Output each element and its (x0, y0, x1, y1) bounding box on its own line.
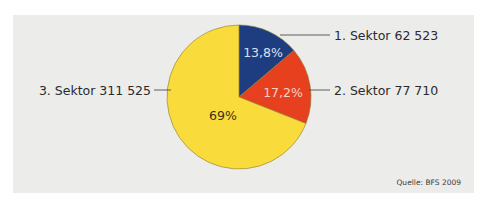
pie-chart: 13,8%17,2%69% 1. Sektor 62 5232. Sektor … (0, 0, 486, 208)
percent-label-3: 69% (209, 108, 237, 123)
category-label-3: 3. Sektor 311 525 (39, 83, 151, 98)
category-label-2: 2. Sektor 77 710 (334, 83, 438, 98)
percent-label-1: 13,8% (243, 45, 283, 60)
source-note: Quelle: BFS 2009 (396, 178, 461, 187)
category-label-1: 1. Sektor 62 523 (334, 28, 438, 43)
percent-label-2: 17,2% (263, 85, 303, 100)
